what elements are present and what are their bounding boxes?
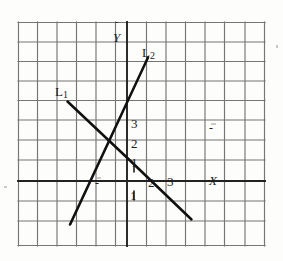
x-axis-negative-mark: - (95, 177, 99, 189)
line-label-L1: L1 (55, 85, 68, 100)
line-label-L2: L2 (142, 46, 155, 61)
paper-specks (4, 45, 278, 188)
line-label-L2-letter: L (142, 45, 150, 60)
y-tick-label-1: 1 (131, 156, 138, 169)
y-tick-label-2: 2 (131, 137, 138, 150)
graph-canvas (0, 0, 283, 261)
y-tick-label-3: 3 (131, 117, 138, 130)
line-label-L1-subscript: 1 (63, 89, 68, 100)
y-axis-label: Y (113, 31, 120, 44)
x-axis-label: X (209, 174, 217, 187)
stray-mark-right: - (209, 122, 213, 134)
y-tick-label-negative-1: 1 (130, 189, 137, 202)
stray-mark-top: - (115, 16, 119, 27)
graph-figure: Y X L1 L2 3 2 1 2 3 1 - - - (0, 0, 283, 261)
x-tick-label-3: 3 (167, 175, 174, 188)
line-label-L2-subscript: 2 (150, 50, 155, 61)
x-tick-label-2: 2 (148, 176, 155, 189)
line-label-L1-letter: L (55, 84, 63, 99)
